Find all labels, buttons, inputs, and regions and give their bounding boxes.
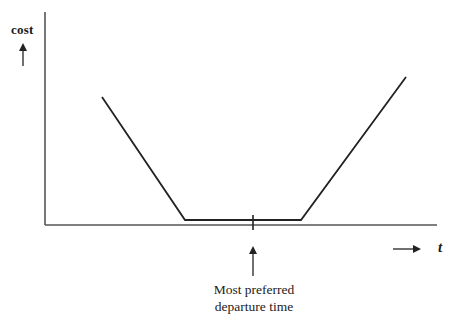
caption-line-1: Most preferred [204, 281, 304, 298]
caption-line-2: departure time [204, 298, 304, 315]
y-axis-label: cost [11, 22, 33, 38]
cost-curve [102, 77, 406, 220]
preferred-time-caption: Most preferred departure time [204, 281, 304, 315]
x-axis-label: t [438, 239, 442, 256]
cost-curve-diagram [0, 0, 458, 329]
